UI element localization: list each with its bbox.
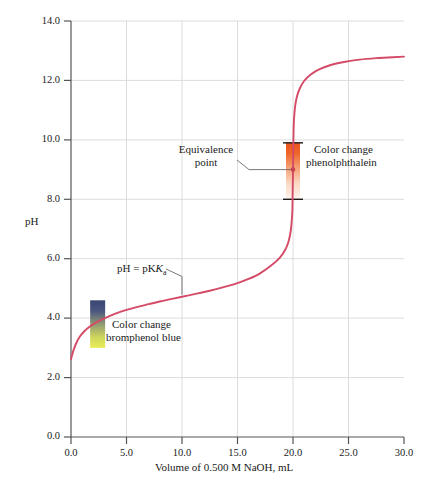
pka-label-subscript: a bbox=[163, 268, 167, 277]
y-tick-label-6: 6.0 bbox=[26, 252, 60, 264]
equivalence-point-label-line2: point bbox=[168, 156, 244, 169]
x-tick-label-15: 15.0 bbox=[218, 447, 258, 459]
y-tick-label-10: 10.0 bbox=[26, 133, 60, 145]
x-tick-label-0: 0.0 bbox=[51, 447, 91, 459]
titration-curve-figure: 14.0 12.0 10.0 8.0 6.0 4.0 2.0 0.0 pH 0.… bbox=[0, 0, 431, 489]
pka-label-k: K bbox=[156, 262, 163, 274]
y-tick-label-2: 2.0 bbox=[26, 371, 60, 383]
x-tick-label-5: 5.0 bbox=[107, 447, 147, 459]
y-tick-label-4: 4.0 bbox=[26, 311, 60, 323]
phenolphthalein-label-line2: phenolphthalein bbox=[306, 156, 377, 169]
y-tick-label-8: 8.0 bbox=[26, 193, 60, 205]
pka-label: pH = pKKa bbox=[117, 262, 167, 278]
pka-label-text: pH = pK bbox=[117, 262, 156, 274]
equivalence-point-marker bbox=[291, 167, 296, 172]
x-tick-label-10: 10.0 bbox=[162, 447, 202, 459]
equivalence-point-label: Equivalence point bbox=[168, 143, 244, 169]
chart-canvas bbox=[0, 0, 431, 489]
x-axis-title: Volume of 0.500 M NaOH, mL bbox=[155, 461, 293, 474]
x-tick-label-20: 20.0 bbox=[273, 447, 313, 459]
y-tick-label-12: 12.0 bbox=[26, 74, 60, 86]
phenolphthalein-label: Color change phenolphthalein bbox=[306, 143, 377, 169]
y-axis-ticks bbox=[64, 21, 71, 437]
x-tick-label-30: 30.0 bbox=[384, 447, 424, 459]
bromphenol-blue-label-line1: Color change bbox=[106, 318, 181, 331]
phenolphthalein-label-line1: Color change bbox=[306, 143, 377, 156]
x-axis-ticks bbox=[71, 437, 404, 444]
equivalence-point-label-line1: Equivalence bbox=[168, 143, 244, 156]
bromphenol-blue-label-line2: bromphenol blue bbox=[106, 331, 181, 344]
y-axis-title: pH bbox=[25, 215, 38, 228]
bromphenol-blue-label: Color change bromphenol blue bbox=[106, 318, 181, 344]
y-tick-label-14: 14.0 bbox=[26, 15, 60, 27]
y-tick-label-0: 0.0 bbox=[26, 430, 60, 442]
x-tick-label-25: 25.0 bbox=[329, 447, 369, 459]
